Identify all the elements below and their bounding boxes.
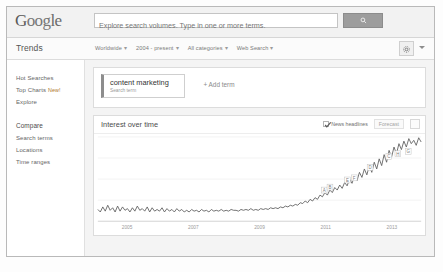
sidebar-item-label: Top Charts — [16, 87, 46, 93]
interest-over-time-panel: Interest over time News headlines — [93, 115, 426, 236]
chevron-down-icon: ▾ — [124, 45, 127, 51]
x-axis-tick-label: 2011 — [321, 225, 331, 230]
overflow-menu-icon[interactable] — [419, 46, 425, 49]
news-headlines-toggle[interactable]: News headlines — [323, 121, 368, 127]
search-button[interactable] — [343, 13, 383, 28]
sidebar-item-explore[interactable]: Explore — [7, 96, 84, 108]
svg-text:E: E — [346, 178, 349, 183]
search-input[interactable] — [95, 19, 337, 32]
sidebar-item-top-charts[interactable]: Top ChartsNew! — [7, 84, 84, 96]
page-frame: Google Trends Worldwide▾ — [6, 6, 435, 257]
page-body: Hot Searches Top ChartsNew! Explore Comp… — [7, 60, 434, 256]
sidebar: Hot Searches Top ChartsNew! Explore Comp… — [7, 60, 85, 256]
checkbox-icon[interactable] — [323, 121, 329, 127]
gear-icon — [402, 40, 411, 58]
sidebar-item-hot-searches[interactable]: Hot Searches — [7, 72, 84, 84]
trend-line-chart: ABEFDCHG — [94, 133, 425, 235]
top-search-bar: Google — [7, 7, 434, 38]
search-terms-panel: content marketing Search term + Add term — [93, 67, 426, 108]
search-term-title: content marketing — [110, 78, 174, 87]
x-axis-labels: 20052007200920112013 — [94, 225, 425, 233]
svg-text:G: G — [407, 149, 411, 154]
x-axis-tick-label: 2005 — [122, 225, 133, 230]
chart-header: Interest over time News headlines — [94, 116, 425, 134]
filter-category[interactable]: All categories▾ — [188, 45, 228, 51]
filter-timerange[interactable]: 2004 - present▾ — [136, 45, 179, 51]
google-logo[interactable]: Google — [15, 11, 61, 31]
x-axis-tick-label: 2013 — [387, 225, 398, 230]
svg-text:F: F — [353, 176, 356, 181]
search-term-chip[interactable]: content marketing Search term — [101, 74, 185, 98]
settings-button[interactable] — [399, 41, 414, 56]
chevron-down-icon: ▾ — [270, 45, 273, 51]
trends-brand: Trends — [16, 43, 43, 53]
chevron-down-icon: ▾ — [176, 45, 179, 51]
svg-text:B: B — [329, 185, 332, 190]
sidebar-item-search-terms[interactable]: Search terms — [7, 132, 84, 144]
sidebar-item-label: Hot Searches — [16, 75, 54, 81]
sidebar-item-time-ranges[interactable]: Time ranges — [7, 156, 84, 168]
svg-text:D: D — [368, 165, 371, 170]
filter-searchtype[interactable]: Web Search▾ — [237, 45, 274, 51]
main-content: content marketing Search term + Add term… — [85, 60, 434, 256]
forecast-button[interactable]: Forecast — [374, 119, 404, 129]
trends-subheader: Trends Worldwide▾ 2004 - present▾ All ca… — [7, 38, 434, 60]
sidebar-item-locations[interactable]: Locations — [7, 144, 84, 156]
chart-plot-area: ABEFDCHG 20052007200920112013 — [94, 133, 425, 235]
filter-location-label: Worldwide — [95, 45, 122, 51]
search-term-subtitle: Search term — [110, 87, 174, 94]
google-trends-screen: Google Trends Worldwide▾ — [0, 0, 443, 272]
x-axis-tick-label: 2009 — [254, 225, 265, 230]
chart-title: Interest over time — [101, 120, 158, 129]
sidebar-item-label: Locations — [16, 147, 43, 153]
new-badge: New! — [48, 87, 61, 93]
sidebar-item-label: Search terms — [16, 135, 53, 141]
svg-text:H: H — [396, 152, 399, 157]
filter-timerange-label: 2004 - present — [136, 45, 173, 51]
sidebar-heading-compare: Compare — [7, 119, 84, 132]
search-box[interactable] — [94, 13, 338, 28]
svg-text:A: A — [323, 188, 326, 193]
sidebar-divider — [7, 108, 84, 119]
sidebar-item-label: Time ranges — [16, 159, 50, 165]
news-headlines-label: News headlines — [331, 121, 368, 127]
filter-searchtype-label: Web Search — [237, 45, 269, 51]
chart-toolbar: News headlines Forecast — [323, 119, 420, 129]
embed-icon[interactable] — [410, 119, 420, 129]
filter-location[interactable]: Worldwide▾ — [95, 45, 127, 51]
filter-category-label: All categories — [188, 45, 223, 51]
sidebar-item-label: Explore — [16, 99, 37, 105]
chevron-down-icon: ▾ — [225, 45, 228, 51]
search-icon — [360, 17, 367, 24]
x-axis-tick-label: 2007 — [188, 225, 199, 230]
filter-bar: Worldwide▾ 2004 - present▾ All categorie… — [95, 45, 274, 51]
add-term-button[interactable]: + Add term — [203, 81, 234, 88]
